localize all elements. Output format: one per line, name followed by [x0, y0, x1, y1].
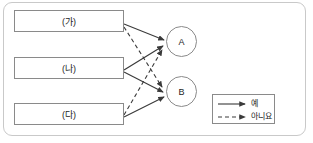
- node-box-ga-label: (가): [62, 15, 76, 28]
- legend-box: 예 아니요: [212, 94, 275, 124]
- node-box-da[interactable]: (다): [14, 103, 124, 125]
- diagram-canvas: (가) (나) (다) A B 예 아니요: [0, 0, 313, 143]
- legend-row-yes: 예: [213, 97, 274, 111]
- legend-solid-line-icon: [213, 97, 276, 111]
- node-circle-b[interactable]: B: [166, 76, 197, 107]
- node-box-na[interactable]: (나): [14, 57, 124, 79]
- node-circle-a-label: A: [178, 37, 184, 47]
- node-circle-b-label: B: [178, 87, 184, 97]
- node-box-ga[interactable]: (가): [14, 10, 124, 32]
- node-box-da-label: (다): [62, 108, 76, 121]
- legend-label-no: 아니요: [251, 113, 272, 121]
- legend-label-yes: 예: [251, 100, 258, 108]
- node-circle-a[interactable]: A: [166, 26, 197, 57]
- legend-row-no: 아니요: [213, 110, 274, 124]
- node-box-na-label: (나): [62, 62, 76, 75]
